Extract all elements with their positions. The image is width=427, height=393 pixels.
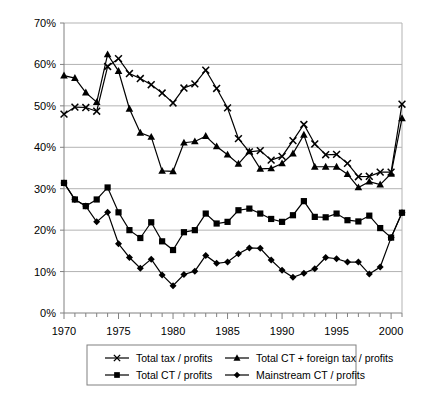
- chart-legend: Total tax / profitsTotal CT + foreign ta…: [87, 345, 393, 385]
- y-tick-label: 70%: [34, 17, 56, 29]
- diamond-marker: [377, 264, 384, 271]
- square-marker: [203, 210, 209, 216]
- diamond-marker: [344, 259, 351, 266]
- y-tick-label: 10%: [34, 266, 56, 278]
- square-marker: [94, 196, 100, 202]
- x-tick-label: 1995: [324, 325, 348, 337]
- triangle-marker: [137, 129, 145, 136]
- triangle-marker: [224, 151, 232, 158]
- square-marker: [366, 213, 372, 219]
- square-marker: [355, 218, 361, 224]
- diamond-marker: [191, 268, 198, 275]
- square-marker: [126, 227, 132, 233]
- data-series-layer: [60, 50, 406, 289]
- square-marker: [333, 210, 339, 216]
- triangle-marker: [300, 131, 308, 138]
- legend-label: Mainstream CT / profits: [256, 369, 365, 381]
- square-marker: [279, 219, 285, 225]
- square-marker: [323, 214, 329, 220]
- square-marker: [192, 227, 198, 233]
- square-marker: [257, 210, 263, 216]
- x-tick-label: 1985: [215, 325, 239, 337]
- x-tick-label: 2000: [379, 325, 403, 337]
- triangle-marker: [60, 72, 68, 79]
- square-marker: [159, 238, 165, 244]
- diamond-marker: [300, 270, 307, 277]
- diamond-marker: [333, 255, 340, 262]
- x-tick-label: 1990: [270, 325, 294, 337]
- square-marker: [290, 212, 296, 218]
- square-marker: [246, 206, 252, 212]
- chart-container: 0%10%20%30%40%50%60%70% 1970197519801985…: [0, 0, 427, 393]
- line-chart: 0%10%20%30%40%50%60%70% 1970197519801985…: [0, 0, 427, 393]
- square-marker: [115, 209, 121, 215]
- y-tick-label: 0%: [40, 307, 56, 319]
- square-marker: [170, 247, 176, 253]
- y-tick-label: 30%: [34, 183, 56, 195]
- y-axis-tick-labels: 0%10%20%30%40%50%60%70%: [34, 17, 56, 319]
- series-total-tax-profits: [61, 55, 406, 180]
- x-tick-label: 1970: [52, 325, 76, 337]
- series-line: [64, 183, 402, 250]
- y-tick-label: 50%: [34, 100, 56, 112]
- square-marker: [105, 184, 111, 190]
- triangle-marker: [344, 170, 352, 177]
- legend-label: Total CT + foreign tax / profits: [256, 352, 393, 364]
- square-marker: [181, 229, 187, 235]
- square-marker: [312, 214, 318, 220]
- series-line: [64, 183, 402, 286]
- triangle-marker: [104, 50, 112, 57]
- square-marker: [114, 372, 120, 378]
- x-axis-tick-labels: 1970197519801985199019952000: [52, 325, 404, 337]
- y-tick-label: 20%: [34, 224, 56, 236]
- square-marker: [214, 220, 220, 226]
- series-total-ct-foreign-tax-profits: [60, 50, 406, 190]
- square-marker: [137, 235, 143, 241]
- triangle-marker: [191, 137, 199, 144]
- square-marker: [235, 207, 241, 213]
- square-marker: [148, 219, 154, 225]
- series-total-ct-profits: [61, 180, 405, 253]
- y-tick-label: 60%: [34, 58, 56, 70]
- y-tick-label: 40%: [34, 141, 56, 153]
- triangle-marker: [202, 132, 210, 139]
- x-axis-ticks: [64, 313, 402, 319]
- legend-label: Total CT / profits: [136, 369, 212, 381]
- triangle-marker: [387, 170, 395, 177]
- diamond-marker: [289, 274, 296, 281]
- square-marker: [224, 219, 230, 225]
- square-marker: [377, 225, 383, 231]
- triangle-marker: [158, 167, 166, 174]
- legend-label: Total tax / profits: [136, 352, 212, 364]
- series-mainstream-ct-profits: [61, 179, 406, 289]
- x-tick-label: 1980: [161, 325, 185, 337]
- x-tick-label: 1975: [106, 325, 130, 337]
- diamond-marker: [246, 244, 253, 251]
- square-marker: [344, 217, 350, 223]
- square-marker: [268, 216, 274, 222]
- square-marker: [301, 198, 307, 204]
- triangle-marker: [289, 150, 297, 157]
